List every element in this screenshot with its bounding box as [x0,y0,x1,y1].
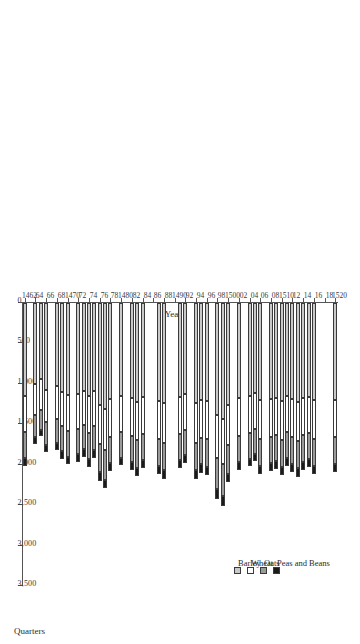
bar-row [130,303,134,586]
bar-segment [307,397,311,434]
bar-segment [23,396,27,433]
bar-segment [130,398,134,436]
bar-segment [44,445,48,452]
bar-segment [44,303,48,390]
bar-row [237,303,241,586]
bar-segment [274,398,278,435]
bar-segment [237,462,241,470]
bar-segment [226,303,230,405]
bar-segment [280,467,284,475]
bar-row [135,303,139,586]
bar-segment [199,464,203,472]
bar-segment [76,454,80,462]
bar-row [66,303,70,586]
bar-segment [130,303,134,398]
bar-segment [103,409,107,450]
bar-row [301,303,305,586]
chart-legend: BarleyWheatOatsPeas and Beans [232,563,284,574]
bar-segment [98,472,102,480]
bar-segment [60,451,64,458]
bar-segment [183,303,187,394]
bar-segment [92,450,96,457]
bar-row [141,303,145,586]
bar-segment [23,432,27,458]
bar-row [296,303,300,586]
bar-segment [258,303,262,400]
bar-segment [135,440,139,467]
bar-segment [23,303,27,396]
bar-segment [157,466,161,474]
bar-segment [253,429,257,454]
bar-segment [274,435,278,461]
category-axis-tick-label: 06 [261,291,269,300]
value-axis-title: Quarters [14,626,45,636]
bar-row [248,303,252,586]
bar-row [307,303,311,586]
bar-segment [76,429,80,454]
bar-segment [162,470,166,478]
bar-segment [157,439,161,466]
bar-segment [92,303,96,391]
bar-segment [119,458,123,466]
bar-row [157,303,161,586]
bar-row [39,303,43,586]
bar-segment [221,464,225,496]
chart-area: Quarters Year 3,5003,0002,5002,0001,5001… [0,0,360,644]
bar-segment [205,467,209,475]
legend-swatch [273,567,280,574]
rotated-chart-stage: Quarters Year 3,5003,0002,5002,0001,5001… [0,0,360,644]
bar-segment [130,436,134,463]
bar-segment [226,474,230,483]
bar-segment [269,303,273,399]
bar-row [290,303,294,586]
bar-segment [103,480,107,489]
bar-segment [66,431,70,456]
legend-entry: Peas and Beans [271,563,282,574]
category-axis-tick-label: 76 [100,291,108,300]
bar-segment [301,398,305,435]
bar-segment [258,400,262,438]
bar-row [44,303,48,586]
bar-segment [108,437,112,464]
bar-segment [296,441,300,468]
bar-segment [301,435,305,461]
bar-segment [248,396,252,432]
bar-segment [248,303,252,396]
category-axis-tick-label: 74 [90,291,98,300]
bar-row [274,303,278,586]
bar-segment [39,303,43,379]
bar-segment [307,303,311,397]
bar-segment [76,394,80,429]
bar-segment [141,460,145,468]
bar-row [162,303,166,586]
bar-segment [119,303,123,396]
bar-segment [76,303,80,394]
bar-segment [119,396,123,432]
bar-segment [87,433,91,459]
bar-segment [296,402,300,441]
bar-segment [333,400,337,438]
bar-row [215,303,219,586]
bar-segment [98,444,102,472]
bar-segment [44,422,48,445]
bar-segment [60,392,64,427]
bar-row [205,303,209,586]
bar-segment [178,303,182,397]
bar-segment [44,390,48,423]
bar-segment [205,401,209,440]
bar-segment [162,403,166,442]
bar-segment [307,459,311,467]
bar-segment [194,403,198,442]
bar-segment [82,391,86,425]
bar-segment [274,303,278,398]
category-axis-tick-label: 14 [304,291,312,300]
bar-row [312,303,316,586]
bar-segment [135,303,139,402]
bar-row [226,303,230,586]
bar-row [33,303,37,586]
legend-label: Peas and Beans [277,558,330,568]
bar-segment [157,401,161,439]
bar-segment [98,303,102,405]
bar-row [98,303,102,586]
bar-row [60,303,64,586]
